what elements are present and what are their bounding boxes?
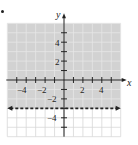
x-axis-label: x: [126, 77, 132, 88]
x-tick-label: 2: [80, 85, 85, 95]
inequality-plot: −4 −2 2 4 4 2 −2 −4 y x: [0, 0, 138, 145]
y-tick-label: −4: [47, 113, 57, 123]
y-tick-label: 4: [55, 38, 60, 48]
y-tick-label: 2: [55, 57, 60, 67]
x-tick-label: 4: [99, 85, 104, 95]
x-tick-label: −4: [17, 85, 27, 95]
x-tick-label: −2: [37, 85, 47, 95]
y-tick-label: −2: [47, 94, 57, 104]
y-axis-label: y: [55, 9, 61, 20]
